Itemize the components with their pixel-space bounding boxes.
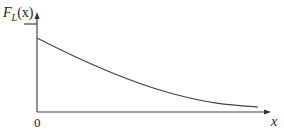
curve-fl xyxy=(37,38,258,107)
x-axis-label: x xyxy=(271,115,277,129)
y-label-main: F xyxy=(3,5,12,20)
y-label-arg: (x) xyxy=(17,5,33,20)
origin-label: 0 xyxy=(34,116,41,129)
y-axis-label: FL(x) xyxy=(3,6,33,23)
x-axis-arrow-icon xyxy=(264,110,271,115)
y-axis-arrow-icon xyxy=(35,12,40,19)
chart xyxy=(0,0,284,132)
